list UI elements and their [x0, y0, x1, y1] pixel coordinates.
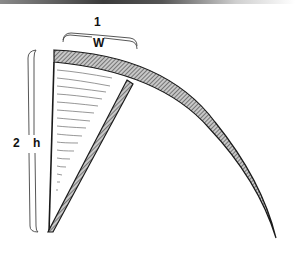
width-number-label: 1 — [94, 16, 101, 28]
diagram-canvas — [0, 0, 295, 271]
height-number-label: 2 — [13, 137, 20, 149]
width-symbol-label: W — [93, 37, 104, 49]
inner-triangular-wedge — [49, 62, 126, 232]
height-symbol-label: h — [33, 137, 40, 149]
